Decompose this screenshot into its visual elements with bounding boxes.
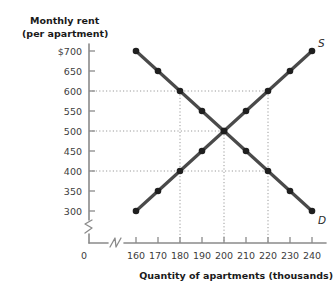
y-tick-label-300: 300 <box>64 206 82 217</box>
x-tick-label-240: 240 <box>303 250 321 261</box>
x-tick-label-230: 230 <box>281 250 299 261</box>
point-s-210 <box>243 108 250 115</box>
x-tick-label-170: 170 <box>149 250 167 261</box>
y-tick-label-500: 500 <box>64 126 82 137</box>
point-s-180 <box>177 168 184 175</box>
y-tick-label-550: 550 <box>64 106 82 117</box>
point-s-190 <box>199 148 206 155</box>
x-tick-label-180: 180 <box>171 250 189 261</box>
point-d-170 <box>155 68 162 75</box>
x-tick-label-190: 190 <box>193 250 211 261</box>
point-s-230 <box>287 68 294 75</box>
y-axis-title-line2: (per apartment) <box>22 28 108 39</box>
y-tick-label-350: 350 <box>64 186 82 197</box>
origin-label: 0 <box>81 250 87 261</box>
x-tick-label-210: 210 <box>237 250 255 261</box>
point-d-200 <box>221 128 228 135</box>
curve-label-d: D <box>318 214 326 226</box>
y-tick-label-700: $700 <box>58 46 82 57</box>
y-tick-label-600: 600 <box>64 86 82 97</box>
x-tick-label-200: 200 <box>215 250 233 261</box>
point-s-220 <box>265 88 272 95</box>
point-s-160 <box>133 208 140 215</box>
point-s-170 <box>155 188 162 195</box>
x-tick-label-160: 160 <box>127 250 145 261</box>
y-axis-title-line1: Monthly rent <box>30 15 100 26</box>
x-tick-label-220: 220 <box>259 250 277 261</box>
point-d-210 <box>243 148 250 155</box>
point-s-240 <box>309 48 316 55</box>
point-d-190 <box>199 108 206 115</box>
point-d-240 <box>309 208 316 215</box>
chart-figure: $700650600550500450400350300160170180190… <box>0 0 335 285</box>
y-tick-label-400: 400 <box>64 166 82 177</box>
curve-label-s: S <box>318 37 325 49</box>
supply-demand-chart: $700650600550500450400350300160170180190… <box>0 0 335 285</box>
point-d-230 <box>287 188 294 195</box>
x-axis-title: Quantity of apartments (thousands) <box>139 270 333 281</box>
point-d-160 <box>133 48 140 55</box>
y-tick-label-650: 650 <box>64 66 82 77</box>
point-d-180 <box>177 88 184 95</box>
point-d-220 <box>265 168 272 175</box>
y-tick-label-450: 450 <box>64 146 82 157</box>
